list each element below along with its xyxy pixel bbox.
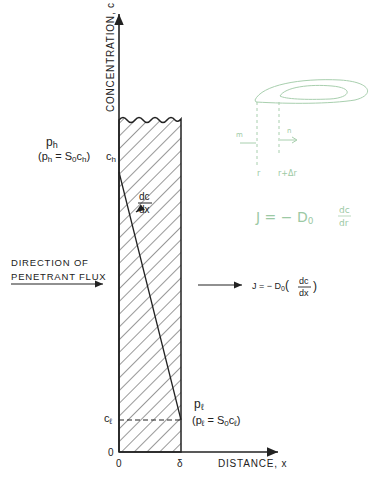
svg-text:): ) [313,279,317,293]
origin-label: 0 [108,447,114,458]
svg-text:dc: dc [139,191,150,202]
svg-text:dx: dx [139,204,150,215]
flux-direction-label: DIRECTION OF PENETRANT FLUX [11,257,107,282]
svg-text:dc: dc [339,205,350,215]
downstream-henry-law: (pℓ = S0cℓ) [192,414,240,428]
svg-text:r: r [257,169,261,178]
x-axis-label: DISTANCE, x [218,458,287,469]
svg-text:dx: dx [299,288,309,298]
c-high-label: ch [106,150,116,164]
svg-text:dc: dc [299,276,309,286]
sketch-inner-loop [280,85,347,99]
fick-law-equation: J = − D0( dc dx ) [252,276,317,298]
handwritten-labels: m n r r+Δr [236,127,297,178]
y-axis-label: CONCENTRATION, c [105,2,116,112]
upstream-henry-law: (ph = S0ch) [38,150,90,164]
svg-text:ch: ch [106,150,116,164]
svg-text:ph: ph [46,135,58,150]
svg-text:m: m [236,131,243,139]
svg-text:(ph = S0ch): (ph = S0ch) [38,150,90,164]
handwritten-sketch [240,80,368,165]
svg-text:J = − D0(: J = − D0( [252,278,289,292]
x-tick-0: 0 [116,458,122,469]
handwritten-equation: J = − D0 dc dr [255,205,351,228]
svg-text:r+Δr: r+Δr [278,169,297,178]
upstream-pressure-label: ph [46,135,58,150]
svg-text:(pℓ = S0cℓ): (pℓ = S0cℓ) [192,414,240,428]
x-tick-delta: δ [177,458,183,469]
svg-text:pℓ: pℓ [194,397,205,412]
svg-text:dr: dr [339,218,349,228]
svg-text:n: n [287,127,291,135]
permeation-diagram: CONCENTRATION, c 0 0 δ DISTANCE, x ph (p… [0,0,387,477]
svg-text:PENETRANT FLUX: PENETRANT FLUX [11,271,107,282]
c-low-label: cℓ [104,412,113,426]
svg-text:DIRECTION OF: DIRECTION OF [11,257,89,268]
downstream-pressure-label: pℓ [194,397,205,412]
membrane [119,118,181,453]
svg-text:cℓ: cℓ [104,412,113,426]
svg-text:J = − D0: J = − D0 [255,209,314,226]
